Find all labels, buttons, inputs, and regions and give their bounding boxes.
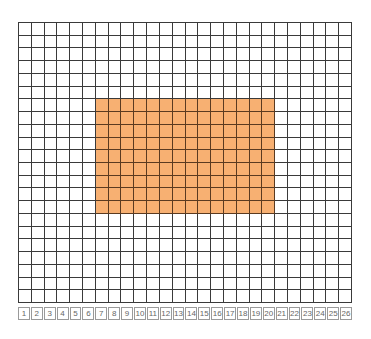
grid-cell-filled (109, 125, 122, 138)
grid-cell (301, 138, 314, 151)
grid-cell (32, 290, 45, 303)
grid-cell (314, 227, 327, 240)
grid-cell (186, 252, 199, 265)
grid-cell-filled (109, 201, 122, 214)
column-label: 25 (327, 307, 339, 320)
grid-cell (96, 23, 109, 36)
grid-cell (70, 188, 83, 201)
grid-cell (57, 227, 70, 240)
grid-cell (186, 48, 199, 61)
grid-cell (250, 61, 263, 74)
grid-cell (314, 74, 327, 87)
grid-cell (83, 48, 96, 61)
column-label: 17 (224, 307, 236, 320)
grid-cell (314, 163, 327, 176)
grid-cell (160, 278, 173, 291)
grid-cell (45, 112, 58, 125)
grid-cell (147, 252, 160, 265)
grid-cell (121, 36, 134, 49)
grid-cell (211, 214, 224, 227)
grid-cell (237, 252, 250, 265)
grid-cell-filled (121, 138, 134, 151)
grid-cell (96, 290, 109, 303)
grid-cell (339, 201, 352, 214)
grid-cell (314, 23, 327, 36)
grid-cell (237, 23, 250, 36)
grid-cell (32, 214, 45, 227)
grid-cell (275, 265, 288, 278)
grid-cell (173, 265, 186, 278)
grid (18, 22, 352, 303)
grid-cell (147, 23, 160, 36)
grid-cell (301, 188, 314, 201)
grid-cell (198, 278, 211, 291)
grid-cell (250, 265, 263, 278)
grid-cell-filled (186, 112, 199, 125)
grid-cell-filled (198, 125, 211, 138)
grid-cell (173, 61, 186, 74)
grid-cell (262, 61, 275, 74)
grid-cell (160, 214, 173, 227)
grid-cell (224, 87, 237, 100)
grid-cell (109, 278, 122, 291)
grid-cell (121, 227, 134, 240)
grid-cell-filled (250, 188, 263, 201)
grid-cell (121, 278, 134, 291)
grid-cell-filled (109, 99, 122, 112)
grid-cell-filled (224, 99, 237, 112)
grid-cell (70, 112, 83, 125)
grid-cell-filled (121, 112, 134, 125)
grid-cell (109, 36, 122, 49)
grid-cell-filled (211, 112, 224, 125)
grid-cell (275, 150, 288, 163)
grid-cell (211, 265, 224, 278)
grid-cell-filled (198, 201, 211, 214)
grid-cell (121, 252, 134, 265)
grid-cell (70, 87, 83, 100)
grid-cell (57, 188, 70, 201)
grid-cell (301, 252, 314, 265)
grid-cell (314, 125, 327, 138)
grid-cell-filled (160, 112, 173, 125)
grid-cell (198, 23, 211, 36)
grid-cell (288, 265, 301, 278)
grid-cell (147, 61, 160, 74)
grid-cell (211, 290, 224, 303)
grid-cell-filled (121, 188, 134, 201)
grid-cell (70, 48, 83, 61)
grid-cell (160, 48, 173, 61)
grid-cell (288, 138, 301, 151)
grid-cell (211, 239, 224, 252)
grid-cell (57, 61, 70, 74)
grid-cell-filled (134, 150, 147, 163)
grid-cell (70, 227, 83, 240)
column-label: 26 (340, 307, 352, 320)
grid-cell-filled (224, 150, 237, 163)
grid-cell (186, 290, 199, 303)
grid-cell (160, 290, 173, 303)
grid-cell (19, 138, 32, 151)
grid-cell-filled (186, 125, 199, 138)
grid-cell (224, 48, 237, 61)
column-label: 18 (237, 307, 249, 320)
grid-cell (109, 61, 122, 74)
grid-cell-filled (250, 99, 263, 112)
grid-cell (83, 278, 96, 291)
grid-cell (57, 150, 70, 163)
grid-cell (45, 239, 58, 252)
grid-cell (326, 150, 339, 163)
grid-cell (288, 150, 301, 163)
grid-cell-filled (134, 112, 147, 125)
grid-cell (314, 290, 327, 303)
grid-cell (275, 176, 288, 189)
grid-cell (19, 74, 32, 87)
grid-cell (262, 278, 275, 291)
grid-cell (339, 23, 352, 36)
grid-cell (109, 214, 122, 227)
grid-cell (70, 23, 83, 36)
grid-cell (326, 87, 339, 100)
grid-cell (45, 252, 58, 265)
grid-cell (275, 87, 288, 100)
grid-cell (134, 239, 147, 252)
grid-cell (224, 23, 237, 36)
